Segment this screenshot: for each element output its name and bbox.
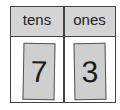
place-value-chart: tens ones 7 3 — [10, 6, 116, 103]
header-ones: ones — [64, 7, 115, 35]
column-divider — [63, 7, 65, 102]
ones-digit-card: 3 — [74, 43, 107, 101]
header-tens: tens — [11, 7, 63, 35]
tens-digit-card: 7 — [23, 43, 56, 101]
